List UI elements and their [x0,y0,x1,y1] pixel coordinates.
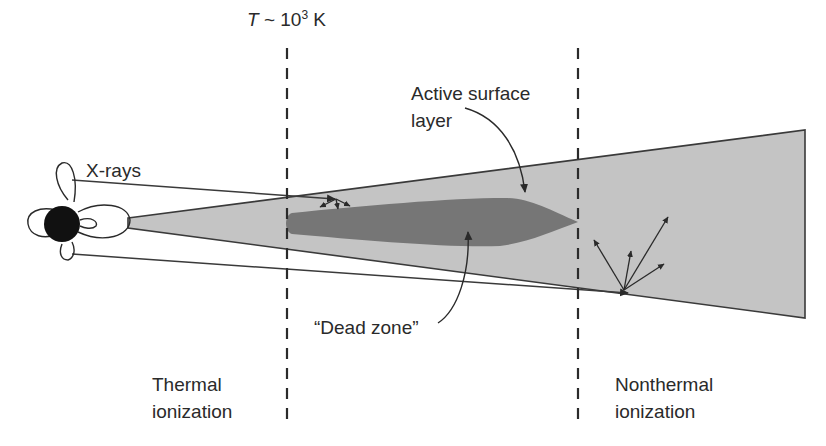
temperature-label: T ~ 103 K [247,8,326,30]
dead-zone-label: “Dead zone” [314,317,419,338]
xrays-label: X-rays [86,160,141,181]
nonthermal-label-line1: Nonthermal [615,374,713,395]
active-layer-label-line2: layer [411,110,453,131]
thermal-label-line2: ionization [152,401,232,422]
nonthermal-label-line2: ionization [615,401,695,422]
star-icon [44,206,80,242]
protoplanetary-disk-diagram: T ~ 103 K X-rays Active surface layer “D… [0,0,826,446]
active-layer-label-line1: Active surface [411,83,530,104]
thermal-label-line1: Thermal [152,374,222,395]
xray-ray-upper [72,180,335,199]
